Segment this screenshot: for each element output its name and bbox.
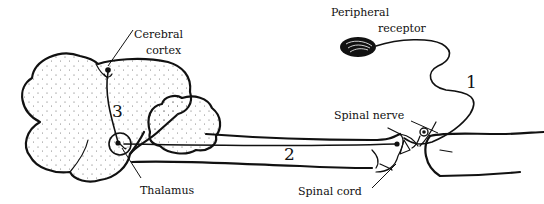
peripheral-receptor-label-1: Peripheral [331, 6, 390, 19]
cerebral-cortex-label-1: Cerebral [134, 28, 184, 41]
spinal-nerve [400, 122, 436, 154]
peripheral-receptor [340, 37, 376, 57]
neuron-number-2: 2 [284, 144, 295, 164]
peripheral-receptor-label-2: receptor [378, 22, 427, 35]
vertebra-segment [388, 128, 544, 176]
second-order-neuron [124, 144, 396, 146]
thalamus-label: Thalamus [140, 184, 195, 197]
spinal-nerve-label: Spinal nerve [334, 109, 404, 122]
second-order-cell-body [394, 141, 399, 146]
neuron-number-1: 1 [466, 72, 477, 92]
neuron-number-3: 3 [112, 101, 123, 121]
sensory-pathway-diagram: Cerebral cortex Peripheral receptor Spin… [0, 0, 544, 204]
spinal-cord-label: Spinal cord [298, 185, 362, 198]
cerebral-cortex-label-2: cortex [146, 44, 182, 57]
